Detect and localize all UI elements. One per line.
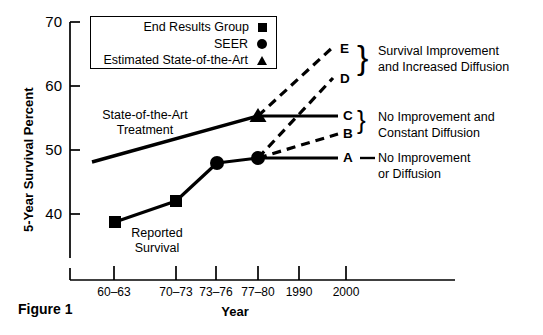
square-marker-icon bbox=[258, 23, 267, 32]
brace-survival-improvement: } bbox=[357, 40, 368, 74]
note-no-improvement-or-diffusion-line2: or Diffusion bbox=[378, 167, 441, 183]
note-survival-improvement-line1: Survival Improvement bbox=[378, 44, 499, 60]
y-axis-title: 5-Year Survival Percent bbox=[22, 87, 37, 232]
x-axis-title: Year bbox=[195, 305, 275, 320]
endpoint-label-A: A bbox=[343, 150, 353, 166]
legend-item-seer: SEER bbox=[97, 37, 267, 51]
legend-item-estimated-state-of-the-art: Estimated State-of-the-Art bbox=[97, 53, 267, 67]
brace-no-improvement-constant: } bbox=[357, 107, 366, 133]
endpoint-label-D: D bbox=[340, 71, 350, 87]
annotation-reported-survival-line1: Reported bbox=[112, 226, 202, 240]
circle-marker-icon bbox=[257, 39, 267, 49]
x-axis bbox=[70, 266, 455, 280]
note-no-improvement-constant-line2: Constant Diffusion bbox=[378, 126, 480, 142]
legend-label-end-results-group: End Results Group bbox=[143, 20, 249, 34]
legend-label-estimated-state-of-the-art: Estimated State-of-the-Art bbox=[103, 53, 248, 67]
endpoint-label-C: C bbox=[343, 108, 353, 124]
legend: End Results Group SEER Estimated State-o… bbox=[90, 16, 277, 69]
marker-square-70-73 bbox=[170, 195, 182, 207]
y-tick-label-70: 70 bbox=[32, 13, 62, 30]
x-tick-label-2000: 2000 bbox=[318, 286, 374, 300]
annotation-state-of-the-art-line2: Treatment bbox=[85, 123, 205, 137]
note-no-improvement-or-diffusion-line1: No Improvement bbox=[378, 151, 470, 167]
series-D-dashed bbox=[258, 78, 333, 158]
marker-circle-73-76 bbox=[210, 156, 224, 170]
marker-circle-77-80 bbox=[251, 151, 265, 165]
note-no-improvement-constant-line1: No Improvement and bbox=[378, 110, 495, 126]
series-reported-survival-line bbox=[115, 158, 258, 222]
legend-label-seer: SEER bbox=[214, 37, 248, 51]
note-survival-improvement-line2: and Increased Diffusion bbox=[378, 60, 509, 76]
figure-container: 70 60 50 40 5-Year Survival Percent 60–6… bbox=[0, 0, 543, 335]
x-tick-label-60-63: 60–63 bbox=[84, 286, 144, 300]
y-axis bbox=[70, 22, 80, 258]
endpoint-label-B: B bbox=[343, 126, 353, 142]
figure-caption: Figure 1 bbox=[18, 301, 72, 317]
legend-item-end-results-group: End Results Group bbox=[97, 20, 267, 34]
annotation-reported-survival-line2: Survival bbox=[112, 241, 202, 255]
annotation-state-of-the-art-line1: State-of-the-Art bbox=[85, 108, 205, 122]
triangle-marker-icon bbox=[257, 56, 267, 65]
endpoint-label-E: E bbox=[340, 41, 349, 57]
